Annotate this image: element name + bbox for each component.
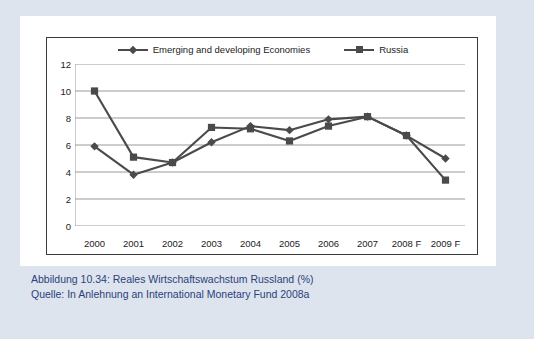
y-axis-tick-labels: 024681012 <box>51 64 71 226</box>
data-point-marker <box>169 159 176 166</box>
data-point-marker <box>247 125 254 132</box>
data-point-marker <box>364 113 371 120</box>
data-point-marker <box>130 154 137 161</box>
data-point-marker <box>442 177 449 184</box>
figure-caption: Abbildung 10.34: Reales Wirtschaftswachs… <box>31 272 501 301</box>
caption-line-source: Quelle: In Anlehnung an International Mo… <box>31 287 501 302</box>
data-point-marker <box>208 124 215 131</box>
y-axis-tick-label: 6 <box>53 140 71 151</box>
data-point-marker <box>325 123 332 130</box>
x-axis-tick-label: 2008 F <box>392 238 422 249</box>
y-axis-tick-label: 8 <box>53 113 71 124</box>
x-axis-tick-label: 2001 <box>123 238 144 249</box>
series-line-emerging <box>95 117 446 175</box>
x-axis-tick-label: 2009 F <box>431 238 461 249</box>
y-axis-tick-label: 0 <box>53 221 71 232</box>
legend-label-emerging: Emerging and developing Economies <box>153 44 310 55</box>
data-point-marker <box>403 132 410 139</box>
y-axis-tick-label: 4 <box>53 167 71 178</box>
data-point-marker <box>324 115 332 123</box>
data-point-marker <box>286 137 293 144</box>
legend-item-emerging: Emerging and developing Economies <box>118 44 310 55</box>
chart-frame: Emerging and developing Economies Russia… <box>46 37 478 255</box>
legend-line-square-icon <box>344 49 374 51</box>
chart-svg <box>75 64 465 226</box>
y-axis-tick-label: 10 <box>53 86 71 97</box>
diamond-marker-icon <box>129 45 137 53</box>
data-point-marker <box>285 126 293 134</box>
legend-label-russia: Russia <box>379 44 408 55</box>
chart-legend: Emerging and developing Economies Russia <box>47 44 479 55</box>
plot-area <box>75 64 465 226</box>
data-point-marker <box>91 87 98 94</box>
y-axis-tick-label: 2 <box>53 194 71 205</box>
x-axis-tick-label: 2003 <box>201 238 222 249</box>
figure-container: Emerging and developing Economies Russia… <box>0 0 534 339</box>
x-axis-tick-labels: 200020012002200320042005200620072008 F20… <box>75 230 465 254</box>
x-axis-tick-label: 2005 <box>279 238 300 249</box>
legend-line-diamond-icon <box>118 49 148 51</box>
y-axis-tick-label: 12 <box>53 59 71 70</box>
x-axis-tick-label: 2002 <box>162 238 183 249</box>
x-axis-tick-label: 2006 <box>318 238 339 249</box>
x-axis-tick-label: 2007 <box>357 238 378 249</box>
series-line-russia <box>95 91 446 180</box>
x-axis-tick-label: 2000 <box>84 238 105 249</box>
caption-line-title: Abbildung 10.34: Reales Wirtschaftswachs… <box>31 272 501 287</box>
square-marker-icon <box>356 46 363 53</box>
legend-item-russia: Russia <box>344 44 408 55</box>
x-axis-tick-label: 2004 <box>240 238 261 249</box>
